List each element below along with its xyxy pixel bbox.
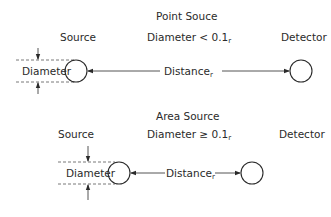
point-condition-sub: r	[228, 37, 231, 45]
area-detector-circle	[241, 162, 263, 184]
area-condition-sub: r	[228, 134, 231, 142]
point-distance-sub: r	[210, 71, 213, 79]
area-source-title: Area Source	[156, 111, 220, 122]
area-diameter-label: Diameter	[66, 168, 115, 179]
area-distance-sub: r	[212, 173, 215, 181]
point-source-label: Source	[60, 32, 96, 43]
point-detector-label: Detector	[281, 32, 327, 43]
area-source-label: Source	[58, 129, 94, 140]
point-diameter-label: Diameter	[22, 66, 71, 77]
area-detector-label: Detector	[279, 129, 325, 140]
point-source-title: Point Souce	[156, 11, 217, 22]
area-condition: Diameter ≥ 0.1r	[147, 129, 231, 142]
area-distance-text: Distance	[166, 167, 212, 179]
point-detector-circle	[290, 60, 312, 82]
point-condition-text: Diameter < 0.1	[147, 31, 228, 43]
area-distance-label: Distancer	[166, 168, 215, 181]
point-condition: Diameter < 0.1r	[147, 32, 231, 45]
point-distance-label: Distancer	[164, 66, 213, 79]
point-distance-text: Distance	[164, 65, 210, 77]
area-condition-text: Diameter ≥ 0.1	[147, 128, 228, 140]
